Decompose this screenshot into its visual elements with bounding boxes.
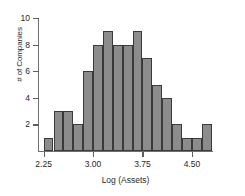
- x-tick-label: 3.75: [122, 159, 162, 169]
- histogram-bar: [202, 124, 212, 151]
- histogram-bar: [172, 124, 182, 151]
- x-tick-mark: [93, 152, 94, 157]
- histogram-bar: [44, 138, 54, 151]
- x-axis-title: Log (Assets): [38, 175, 213, 185]
- histogram-chart: # of Companies 246810 2.253.003.754.50 L…: [0, 0, 245, 196]
- x-axis-line: [38, 151, 213, 152]
- histogram-bar: [73, 124, 83, 151]
- x-tick-mark: [44, 152, 45, 157]
- histogram-bar: [113, 45, 123, 151]
- x-tick-label: 4.50: [172, 159, 212, 169]
- histogram-bar: [63, 111, 73, 151]
- histogram-bar: [182, 138, 192, 151]
- x-tick-mark: [192, 152, 193, 157]
- histogram-bar: [123, 45, 133, 151]
- y-tick-label: 8: [4, 45, 30, 46]
- histogram-bar: [192, 138, 202, 151]
- histogram-bar: [152, 85, 162, 152]
- histogram-bar: [142, 58, 152, 151]
- plot-area: [39, 18, 213, 151]
- histogram-bar: [54, 111, 64, 151]
- histogram-bar: [83, 71, 93, 151]
- y-tick-label: 6: [4, 71, 30, 72]
- x-tick-label: 2.25: [24, 159, 64, 169]
- y-tick-label: 2: [4, 124, 30, 125]
- x-tick-label: 3.00: [73, 159, 113, 169]
- histogram-bar: [93, 45, 103, 151]
- x-tick-mark: [142, 152, 143, 157]
- y-tick-label: 10: [4, 18, 30, 19]
- histogram-bar: [103, 31, 113, 151]
- histogram-bar: [162, 98, 172, 151]
- histogram-bar: [133, 31, 143, 151]
- y-tick-label: 4: [4, 98, 30, 99]
